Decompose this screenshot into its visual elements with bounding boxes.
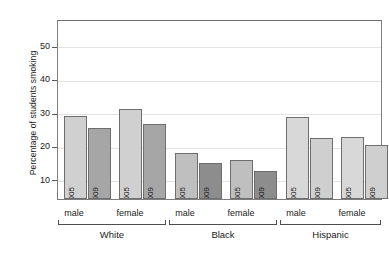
bar-year-label: 2009 [313,181,322,199]
bar-black-female-2005: 2005 [230,160,253,199]
gridline-50 [58,47,381,48]
x-group-label-black: Black [169,230,277,240]
y-tick-label-30: 30 [28,109,50,118]
bar-year-label: 2009 [91,181,100,199]
x-sublabel-black-female: female [216,209,266,218]
bar-year-label: 2009 [368,181,377,199]
y-tick-label-10: 10 [28,176,50,185]
bar-year-label: 2005 [178,181,187,199]
gridline-30 [58,114,381,115]
group-bracket-hispanic [280,220,381,225]
x-sublabel-hispanic-male: male [274,209,318,218]
x-group-label-hispanic: Hispanic [280,230,381,240]
y-tick-label-20: 20 [28,142,50,151]
x-sublabel-black-male: male [163,209,207,218]
x-sublabel-white-male: male [52,209,96,218]
bar-year-label: 2005 [289,181,298,199]
bar-white-male-2005: 2005 [64,116,87,199]
bar-year-label: 2005 [233,181,242,199]
plot-area: 2005 2009 2005 2009 2005 2009 2005 2009 … [57,20,382,200]
x-sublabel-hispanic-female: female [327,209,377,218]
x-group-label-white: White [58,230,166,240]
bar-year-label: 2009 [146,181,155,199]
bar-white-female-2009: 2009 [143,124,166,199]
bar-white-male-2009: 2009 [88,128,111,199]
bar-year-label: 2005 [344,181,353,199]
bar-year-label: 2009 [202,181,211,199]
y-tick-label-50: 50 [28,42,50,51]
bar-hispanic-male-2005: 2005 [286,117,309,199]
bar-hispanic-male-2009: 2009 [310,138,333,199]
bar-white-female-2005: 2005 [119,109,142,199]
bar-year-label: 2009 [257,181,266,199]
bar-black-female-2009: 2009 [254,171,277,199]
group-bracket-black [169,220,277,225]
bar-hispanic-female-2005: 2005 [341,137,364,199]
bar-year-label: 2005 [122,181,131,199]
bar-hispanic-female-2009: 2009 [365,145,388,199]
bar-black-male-2009: 2009 [199,163,222,199]
bar-chart: Percentage of students smoking 50 40 30 … [0,0,389,257]
group-bracket-white [58,220,166,225]
bar-black-male-2005: 2005 [175,153,198,199]
gridline-40 [58,81,381,82]
bar-year-label: 2005 [67,181,76,199]
y-tick-label-40: 40 [28,75,50,84]
x-sublabel-white-female: female [105,209,155,218]
